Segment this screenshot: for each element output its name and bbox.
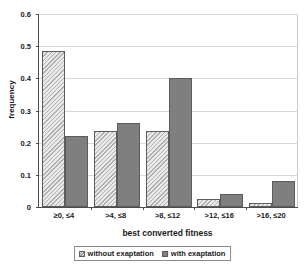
legend-entry-with-exaptation: with exaptation (162, 249, 226, 258)
x-tick-mark (143, 207, 144, 210)
y-tick-label: 0.5 (21, 42, 31, 51)
bar (249, 203, 272, 207)
bar-group (39, 14, 298, 207)
legend-entry-without-exaptation: without exaptation (79, 249, 154, 258)
x-tick-label: ≥0, ≤4 (38, 211, 90, 220)
legend-label-without-exaptation: without exaptation (88, 249, 154, 258)
x-tick-label: >4, ≤8 (90, 211, 142, 220)
x-tick-mark (194, 207, 195, 210)
x-tick-mark (91, 207, 92, 210)
y-tick-label: 0.1 (21, 170, 31, 179)
y-tick-label: 0.2 (21, 138, 31, 147)
plot-area (38, 14, 298, 208)
bar (272, 181, 295, 207)
y-tick-mark (36, 207, 39, 208)
x-tick-mark (246, 207, 247, 210)
bar-chart-figure: frequency 00.10.20.30.40.50.6 ≥0, ≤4>4, … (0, 0, 305, 269)
y-tick-label: 0.3 (21, 106, 31, 115)
x-axis-title: best converted fitness (38, 228, 297, 238)
x-tick-label: >8, ≤12 (142, 211, 194, 220)
y-tick-label: 0.4 (21, 74, 31, 83)
y-axis-tick-labels: 00.10.20.30.40.50.6 (0, 0, 38, 269)
y-tick-label: 0 (27, 203, 31, 212)
x-tick-label: >12, ≤16 (193, 211, 245, 220)
legend-swatch-solid-icon (162, 251, 168, 257)
x-tick-label: >16, ≤20 (245, 211, 297, 220)
y-tick-label: 0.6 (21, 10, 31, 19)
legend-label-with-exaptation: with exaptation (171, 249, 226, 258)
legend-swatch-hatched-icon (79, 251, 85, 257)
chart-legend: without exaptation with exaptation (74, 246, 232, 261)
x-axis-tick-labels: ≥0, ≤4>4, ≤8>8, ≤12>12, ≤16>16, ≤20 (38, 211, 297, 225)
